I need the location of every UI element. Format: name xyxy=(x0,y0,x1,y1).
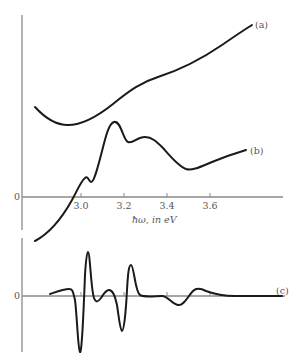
x-tick-label-3.2: 3.2 xyxy=(116,201,131,211)
curve-label-a: (a) xyxy=(255,20,268,30)
zero-label: 0 xyxy=(14,192,20,202)
x-tick-label-3.6: 3.6 xyxy=(202,201,217,211)
curve-label-b: (b) xyxy=(250,146,264,156)
x-tick-label-3.4: 3.4 xyxy=(159,201,174,211)
zero-label-c: 0 xyxy=(14,291,20,301)
x-axis-label: ħω, in eV xyxy=(132,215,177,225)
x-tick-label-3.0: 3.0 xyxy=(73,201,88,211)
curve-c xyxy=(50,252,282,352)
figure-canvas xyxy=(0,0,299,363)
curve-a xyxy=(35,25,252,125)
curve-label-c: (c) xyxy=(276,286,289,296)
